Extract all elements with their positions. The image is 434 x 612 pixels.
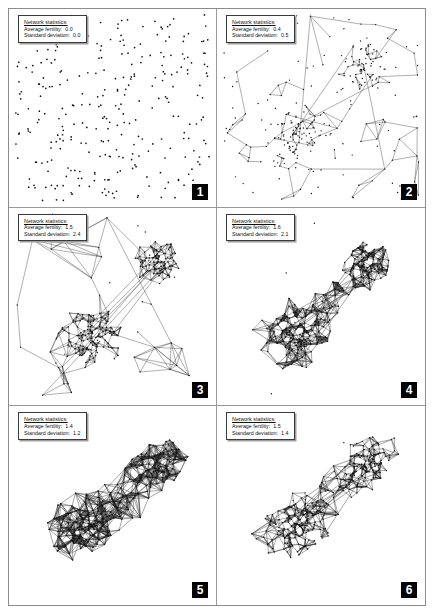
average-fertility-value: 0.4 — [273, 26, 280, 32]
panel-number-badge-2: 2 — [401, 184, 417, 200]
standard-deviation-label: Standard deviation: — [24, 231, 70, 237]
stats-box-5: Network statistics: Average fertility:1.… — [18, 412, 87, 440]
stats-box-3: Network statistics: Average fertility:1.… — [18, 214, 87, 242]
stats-box-4: Network statistics: Average fertility:1.… — [226, 214, 295, 242]
average-fertility-value: 1.5 — [65, 224, 72, 230]
stats-title: Network statistics: — [232, 416, 288, 423]
average-fertility-value: 1.4 — [65, 423, 72, 429]
average-fertility-label: Average fertility: — [232, 423, 270, 429]
stats-box-2: Network statistics: Average fertility:0.… — [226, 15, 295, 43]
standard-deviation-row: Standard deviation:2.1 — [232, 231, 288, 238]
standard-deviation-row: Standard deviation:0.5 — [232, 32, 288, 39]
panel-number-badge-3: 3 — [192, 382, 208, 398]
standard-deviation-label: Standard deviation: — [24, 430, 70, 436]
panel-2[interactable]: Network statistics: Average fertility:0.… — [217, 9, 425, 208]
average-fertility-row: Average fertility:1.6 — [232, 224, 288, 231]
network-evolution-figure: Network statistics: Average fertility:0.… — [0, 0, 434, 612]
panel-5[interactable]: Network statistics: Average fertility:1.… — [9, 406, 217, 605]
average-fertility-value: 1.5 — [273, 423, 280, 429]
panel-3[interactable]: Network statistics: Average fertility:1.… — [9, 208, 217, 407]
average-fertility-row: Average fertility:1.5 — [24, 224, 80, 231]
average-fertility-label: Average fertility: — [24, 423, 62, 429]
standard-deviation-label: Standard deviation: — [232, 231, 278, 237]
panel-number-badge-5: 5 — [192, 582, 208, 598]
stats-box-6: Network statistics: Average fertility:1.… — [226, 412, 295, 440]
average-fertility-row: Average fertility:0.4 — [232, 26, 288, 33]
standard-deviation-row: Standard deviation:1.4 — [232, 430, 288, 437]
stats-title: Network statistics: — [232, 218, 288, 225]
standard-deviation-label: Standard deviation: — [24, 32, 70, 38]
average-fertility-value: 0.0 — [65, 26, 72, 32]
average-fertility-row: Average fertility:1.5 — [232, 423, 288, 430]
stats-title: Network statistics: — [24, 416, 80, 423]
average-fertility-value: 1.6 — [273, 224, 280, 230]
average-fertility-label: Average fertility: — [24, 26, 62, 32]
panel-6[interactable]: Network statistics: Average fertility:1.… — [217, 406, 425, 605]
standard-deviation-row: Standard deviation:1.2 — [24, 430, 80, 437]
panel-number-badge-4: 4 — [401, 382, 417, 398]
average-fertility-label: Average fertility: — [24, 224, 62, 230]
stats-title: Network statistics: — [232, 19, 288, 26]
panel-grid: Network statistics: Average fertility:0.… — [8, 8, 426, 606]
standard-deviation-row: Standard deviation:2.4 — [24, 231, 80, 238]
panel-2-edges — [227, 16, 418, 199]
standard-deviation-value: 2.4 — [73, 231, 80, 237]
average-fertility-row: Average fertility:1.4 — [24, 423, 80, 430]
standard-deviation-label: Standard deviation: — [232, 430, 278, 436]
panel-number-badge-1: 1 — [192, 184, 208, 200]
stats-box-1: Network statistics: Average fertility:0.… — [18, 15, 87, 43]
panel-4[interactable]: Network statistics: Average fertility:1.… — [217, 208, 425, 407]
panel-number-badge-6: 6 — [401, 582, 417, 598]
panel-4-edges — [253, 242, 389, 369]
stats-title: Network statistics: — [24, 218, 80, 225]
average-fertility-label: Average fertility: — [232, 224, 270, 230]
panel-1[interactable]: Network statistics: Average fertility:0.… — [9, 9, 217, 208]
stats-title: Network statistics: — [24, 19, 80, 26]
standard-deviation-value: 1.4 — [281, 430, 288, 436]
panel-5-edges — [48, 440, 188, 560]
standard-deviation-row: Standard deviation:0.0 — [24, 32, 80, 39]
standard-deviation-value: 2.1 — [281, 231, 288, 237]
average-fertility-row: Average fertility:0.0 — [24, 26, 80, 33]
average-fertility-label: Average fertility: — [232, 26, 270, 32]
standard-deviation-label: Standard deviation: — [232, 32, 278, 38]
panel-2-nodes — [223, 15, 419, 200]
standard-deviation-value: 0.0 — [73, 32, 80, 38]
standard-deviation-value: 1.2 — [73, 430, 80, 436]
standard-deviation-value: 0.5 — [281, 32, 288, 38]
